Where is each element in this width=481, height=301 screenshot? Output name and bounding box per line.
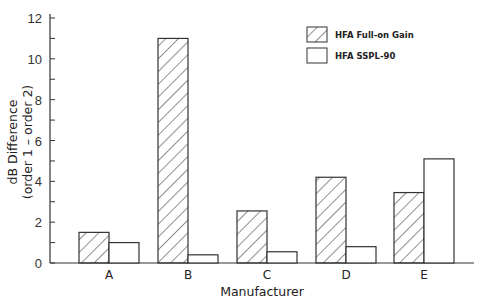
y-tick-label: 0	[35, 256, 42, 271]
x-tick-label: A	[105, 268, 114, 282]
legend-label: HFA Full-on Gain	[335, 30, 414, 40]
y-axis-title: dB Difference	[5, 99, 20, 184]
y-tick-label: 6	[35, 134, 42, 149]
x-tick-label: C	[263, 268, 271, 282]
bars: ABCDE	[79, 38, 454, 282]
bar-d-sspl-90	[346, 247, 376, 263]
bar-e-full-on-gain	[394, 193, 424, 263]
x-tick-label: B	[184, 268, 192, 282]
bar-a-sspl-90	[109, 243, 139, 263]
bar-e-sspl-90	[424, 159, 454, 263]
y-tick-label: 10	[28, 52, 42, 67]
bar-c-sspl-90	[267, 252, 297, 263]
bar-d-full-on-gain	[316, 177, 346, 263]
bar-chart: 024681012 ABCDE HFA Full-on GainHFA SSPL…	[0, 0, 481, 301]
bar-b-sspl-90	[188, 255, 218, 263]
legend-swatch	[307, 27, 327, 42]
x-tick-label: D	[341, 268, 350, 282]
legend: HFA Full-on GainHFA SSPL-90	[307, 27, 414, 63]
x-axis-title: Manufacturer	[220, 284, 305, 299]
y-tick-label: 4	[35, 174, 42, 189]
y-tick-label: 2	[35, 215, 42, 230]
legend-label: HFA SSPL-90	[335, 51, 395, 61]
y-axis-title-line2: (order 1 – order 2)	[20, 85, 35, 199]
y-tick-label: 12	[28, 11, 42, 26]
bar-a-full-on-gain	[79, 232, 109, 263]
bar-b-full-on-gain	[158, 38, 188, 263]
y-tick-label: 8	[35, 93, 42, 108]
legend-swatch	[307, 48, 327, 63]
bar-c-full-on-gain	[237, 211, 267, 263]
x-tick-label: E	[420, 268, 428, 282]
